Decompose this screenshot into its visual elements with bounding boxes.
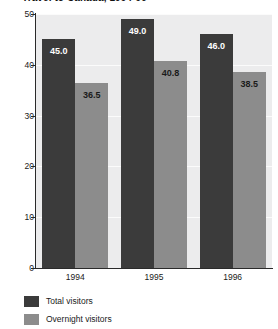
chart-title-strip: Travel to Canada, 1994-96	[0, 0, 278, 7]
bar-overnight-visitors-1994: 36.5	[75, 83, 108, 268]
bar-overnight-visitors-1995: 40.8	[154, 61, 187, 268]
legend-label: Total visitors	[46, 296, 93, 306]
x-category-label-1995: 1995	[115, 272, 194, 282]
y-tick-label: 10	[0, 212, 34, 222]
bar-overnight-visitors-1996: 38.5	[233, 72, 266, 268]
legend-item: Total visitors	[24, 293, 274, 309]
gridline	[36, 14, 272, 15]
y-tick-mark	[31, 166, 35, 167]
y-tick-label: 20	[0, 161, 34, 171]
y-tick-label: 40	[0, 60, 34, 70]
legend-item: Overnight visitors	[24, 311, 274, 327]
bar-value-label: 40.8	[154, 68, 187, 78]
y-tick-label: 30	[0, 111, 34, 121]
chart-legend: Total visitorsOvernight visitors	[24, 293, 274, 329]
bar-value-label: 36.5	[75, 90, 108, 100]
y-tick-mark	[31, 14, 35, 15]
bar-value-label: 46.0	[200, 41, 233, 51]
legend-label: Overnight visitors	[46, 314, 112, 324]
y-tick-label: 50	[0, 9, 34, 19]
bar-value-label: 45.0	[42, 46, 75, 56]
bar-total-visitors-1996: 46.0	[200, 34, 233, 268]
y-tick-mark	[31, 116, 35, 117]
legend-swatch	[24, 314, 39, 325]
chart-title: Travel to Canada, 1994-96	[22, 0, 147, 3]
bar-total-visitors-1994: 45.0	[42, 39, 75, 268]
y-tick-label: 0	[0, 263, 34, 273]
bar-value-label: 38.5	[233, 79, 266, 89]
x-category-label-1996: 1996	[193, 272, 272, 282]
bar-value-label: 49.0	[121, 26, 154, 36]
y-axis-line	[35, 13, 36, 269]
y-tick-mark	[31, 65, 35, 66]
plot-area: 45.036.549.040.846.038.5	[36, 14, 272, 268]
bar-total-visitors-1995: 49.0	[121, 19, 154, 268]
bar-chart: Millions of Person-Trips 45.036.549.040.…	[0, 7, 278, 283]
y-tick-mark	[31, 217, 35, 218]
x-axis-line	[33, 268, 273, 269]
y-tick-mark	[31, 268, 35, 269]
x-category-label-1994: 1994	[36, 272, 115, 282]
legend-swatch	[24, 296, 39, 307]
